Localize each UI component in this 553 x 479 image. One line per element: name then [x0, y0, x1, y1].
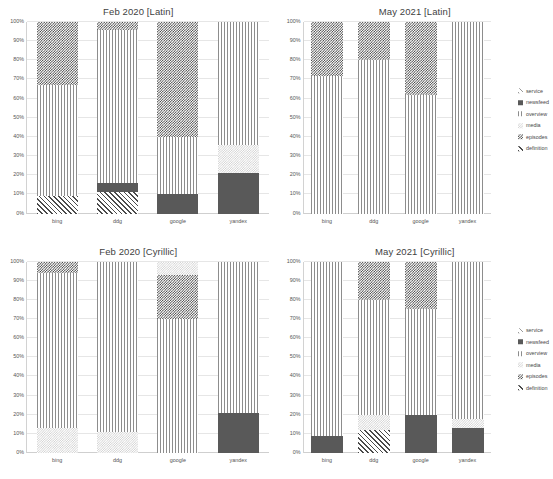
- stacked-bar[interactable]: google: [405, 262, 437, 454]
- y-axis-tick-label: 0%: [16, 449, 24, 455]
- y-axis-tick-label: 40%: [290, 372, 301, 378]
- bar-segment-overview[interactable]: [37, 85, 78, 196]
- legend-item[interactable]: episodes: [518, 374, 549, 380]
- stacked-bar[interactable]: ddg: [97, 262, 138, 454]
- stacked-bar[interactable]: google: [405, 22, 437, 214]
- legend-swatch-overview-icon: [518, 112, 523, 117]
- y-axis-tick-label: 90%: [290, 277, 301, 283]
- bar-segment-episodes[interactable]: [311, 22, 343, 76]
- bar-segment-episodes[interactable]: [358, 262, 390, 300]
- legend-label: newsfeed: [526, 339, 549, 345]
- bar-segment-overview[interactable]: [157, 137, 198, 194]
- bar-segment-overview[interactable]: [311, 262, 343, 436]
- stacked-bar[interactable]: bing: [37, 262, 78, 454]
- y-axis-tick-label: 100%: [287, 258, 301, 264]
- y-axis-tick-label: 0%: [16, 210, 24, 216]
- legend-swatch-newsfeed-icon: [518, 100, 523, 105]
- bar-segment-media[interactable]: [452, 419, 484, 429]
- bar-segment-newsfeed[interactable]: [405, 415, 437, 453]
- bar-segment-episodes[interactable]: [37, 262, 78, 273]
- stacked-bar[interactable]: bing: [311, 262, 343, 454]
- panel-title: Feb 2020 [Cyrillic]: [0, 246, 277, 257]
- chart-panel: Feb 2020 [Latin]0%10%20%30%40%50%60%70%8…: [0, 0, 277, 240]
- bar-segment-newsfeed[interactable]: [218, 413, 259, 453]
- legend-label: newsfeed: [526, 100, 549, 106]
- legend-item[interactable]: media: [518, 362, 549, 368]
- legend-item[interactable]: definition: [518, 385, 549, 391]
- stacked-bar[interactable]: bing: [37, 22, 78, 214]
- bar-segment-overview[interactable]: [452, 22, 484, 214]
- stacked-bar[interactable]: ddg: [358, 262, 390, 454]
- bar-segment-overview[interactable]: [405, 95, 437, 214]
- legend-item[interactable]: overview: [518, 111, 549, 117]
- legend-item[interactable]: definition: [518, 146, 549, 152]
- bar-segment-newsfeed[interactable]: [452, 428, 484, 453]
- stacked-bar[interactable]: yandex: [218, 262, 259, 454]
- bar-segment-episodes[interactable]: [405, 22, 437, 95]
- bar-segment-episodes[interactable]: [97, 22, 138, 30]
- stacked-bar[interactable]: ddg: [358, 22, 390, 214]
- legend-item[interactable]: newsfeed: [518, 339, 549, 345]
- bar-segment-episodes[interactable]: [37, 22, 78, 85]
- bar-segment-overview[interactable]: [358, 60, 390, 213]
- legend-item[interactable]: newsfeed: [518, 100, 549, 106]
- x-axis-category-label: bing: [52, 218, 62, 224]
- legend-item[interactable]: service: [518, 88, 549, 94]
- bar-segment-episodes[interactable]: [157, 22, 198, 137]
- bar-segment-overview[interactable]: [97, 30, 138, 183]
- y-axis-tick-label: 80%: [13, 56, 24, 62]
- stacked-bar[interactable]: google: [157, 22, 198, 214]
- bar-segment-newsfeed[interactable]: [157, 194, 198, 213]
- legend-swatch-overview-icon: [518, 351, 523, 356]
- bar-segment-newsfeed[interactable]: [97, 183, 138, 193]
- bar-segment-definition[interactable]: [97, 192, 138, 213]
- legend-item[interactable]: media: [518, 123, 549, 129]
- legend-item[interactable]: overview: [518, 351, 549, 357]
- legend-swatch-media-icon: [518, 363, 523, 368]
- bar-segment-overview[interactable]: [405, 309, 437, 414]
- bar-segment-media[interactable]: [97, 432, 138, 453]
- y-axis-tick-label: 90%: [13, 37, 24, 43]
- stacked-bar[interactable]: bing: [311, 22, 343, 214]
- x-axis-category-label: bing: [322, 218, 332, 224]
- plot-area: 0%10%20%30%40%50%60%70%80%90%100%bingddg…: [26, 22, 269, 214]
- bar-segment-episodes[interactable]: [358, 22, 390, 60]
- y-axis-tick-label: 70%: [290, 315, 301, 321]
- legend-swatch-episodes-icon: [518, 135, 523, 140]
- bar-segment-definition[interactable]: [358, 430, 390, 453]
- bar-segment-overview[interactable]: [311, 76, 343, 214]
- bar-segment-definition[interactable]: [37, 196, 78, 213]
- bar-segment-overview[interactable]: [358, 300, 390, 415]
- stacked-bar[interactable]: yandex: [452, 22, 484, 214]
- y-axis-tick-label: 60%: [13, 334, 24, 340]
- bar-segment-overview[interactable]: [37, 273, 78, 428]
- bar-segment-newsfeed[interactable]: [311, 436, 343, 453]
- bar-segment-newsfeed[interactable]: [218, 173, 259, 213]
- bar-segment-overview[interactable]: [218, 22, 259, 145]
- stacked-bar[interactable]: google: [157, 262, 198, 454]
- stacked-bar[interactable]: yandex: [452, 262, 484, 454]
- bar-segment-overview[interactable]: [97, 262, 138, 432]
- legend-swatch-media-icon: [518, 123, 523, 128]
- bar-segment-episodes[interactable]: [405, 262, 437, 310]
- bar-segment-overview[interactable]: [157, 319, 198, 453]
- bar-segment-media[interactable]: [37, 428, 78, 453]
- legend-item[interactable]: episodes: [518, 134, 549, 140]
- bar-segment-media[interactable]: [358, 415, 390, 430]
- y-axis-tick-label: 50%: [13, 353, 24, 359]
- bar-segment-media[interactable]: [157, 262, 198, 275]
- legend-swatch-definition-icon: [518, 146, 523, 151]
- bar-segment-episodes[interactable]: [157, 275, 198, 319]
- chart-panel: May 2021 [Cyrillic]0%10%20%30%40%50%60%7…: [277, 240, 553, 479]
- x-axis-category-label: yandex: [459, 457, 476, 463]
- bar-segment-overview[interactable]: [218, 262, 259, 413]
- y-axis-tick-label: 40%: [290, 133, 301, 139]
- x-axis-category-label: yandex: [459, 218, 476, 224]
- stacked-bar[interactable]: ddg: [97, 22, 138, 214]
- bar-segment-media[interactable]: [218, 145, 259, 174]
- legend-item[interactable]: service: [518, 328, 549, 334]
- bar-segment-overview[interactable]: [452, 262, 484, 419]
- panel-title: May 2021 [Cyrillic]: [277, 246, 553, 257]
- stacked-bar[interactable]: yandex: [218, 22, 259, 214]
- chart-legend: servicenewsfeedoverviewmediaepisodesdefi…: [518, 328, 549, 392]
